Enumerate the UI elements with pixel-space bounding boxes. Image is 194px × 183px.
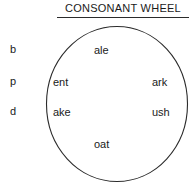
wheel-circle-path [47,27,188,182]
rime-label-ush: ush [152,106,170,118]
rime-label-oat: oat [94,138,109,150]
consonant-wheel-worksheet: CONSONANT WHEEL b p d ale ent ark ake us… [0,0,194,183]
consonant-letter-b: b [10,43,26,55]
rime-label-ark: ark [152,76,167,88]
consonant-letter-p: p [10,75,26,87]
page-title-text: CONSONANT WHEEL [57,2,189,15]
consonant-letter-d: d [10,105,26,117]
wheel-circle-outline [45,25,189,183]
rime-label-ent: ent [53,76,68,88]
rime-label-ale: ale [94,44,109,56]
page-title: CONSONANT WHEEL [57,2,189,18]
title-underline-rule [57,17,189,18]
consonant-wheel: ale ent ark ake ush oat [45,25,189,183]
rime-label-ake: ake [53,106,71,118]
